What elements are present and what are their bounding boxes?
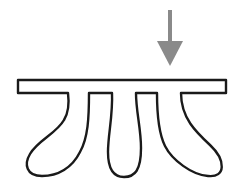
- plate-with-lobes-outline: [18, 80, 226, 177]
- diagram-svg: [0, 0, 242, 196]
- down-arrow-icon: [157, 10, 183, 66]
- diagram-canvas: [0, 0, 242, 196]
